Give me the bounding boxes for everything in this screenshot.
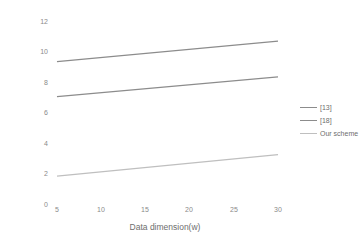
legend-label-our-scheme: Our scheme xyxy=(320,130,358,137)
chart-legend: [13] [18] Our scheme xyxy=(300,101,362,140)
series-line-13 xyxy=(57,41,278,62)
legend-label-18: [18] xyxy=(320,117,332,124)
legend-item-13[interactable]: [13] xyxy=(300,101,362,114)
chart-figure: Computation costs of a SM(ms) 12 10 8 6 … xyxy=(0,0,364,246)
legend-label-13: [13] xyxy=(320,104,332,111)
legend-swatch-13 xyxy=(300,107,317,108)
legend-item-our-scheme[interactable]: Our scheme xyxy=(300,127,362,140)
legend-swatch-18 xyxy=(300,120,317,121)
legend-item-18[interactable]: [18] xyxy=(300,114,362,127)
legend-swatch-our-scheme xyxy=(300,133,317,134)
series-line-our-scheme xyxy=(57,155,278,176)
series-line-18 xyxy=(57,77,278,97)
